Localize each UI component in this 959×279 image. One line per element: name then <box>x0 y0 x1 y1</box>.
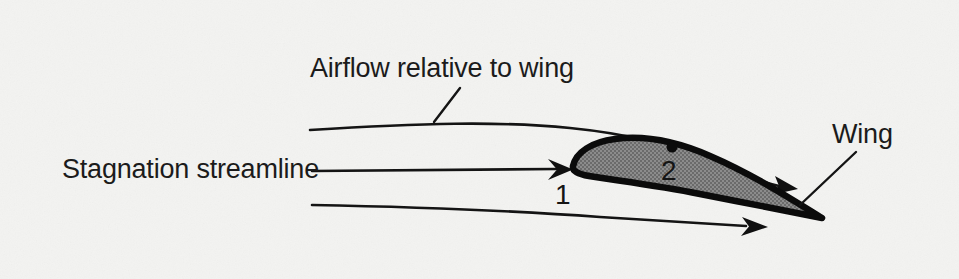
point-1-label: 1 <box>555 179 571 210</box>
surface-point-2-dot <box>667 142 678 153</box>
diagram-canvas: Airflow relative to wing Stagnation stre… <box>0 0 959 279</box>
airfoil-diagram-figure: Airflow relative to wing Stagnation stre… <box>0 0 959 279</box>
airflow-label: Airflow relative to wing <box>310 53 574 83</box>
paper-background <box>0 0 959 279</box>
stagnation-streamline-label: Stagnation streamline <box>62 154 319 184</box>
wing-label: Wing <box>832 119 893 149</box>
point-2-label: 2 <box>661 155 677 186</box>
